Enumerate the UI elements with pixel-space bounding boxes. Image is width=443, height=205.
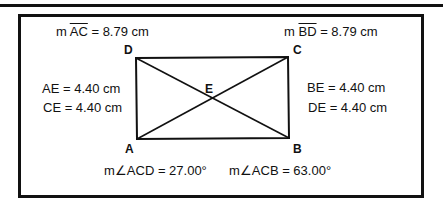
bd-segment: BD <box>298 24 316 39</box>
vertex-e: E <box>205 83 213 96</box>
vertex-a: A <box>125 143 134 156</box>
measure-be: BE = 4.40 cm <box>307 80 385 95</box>
vertex-b: B <box>293 143 302 156</box>
measure-angle-acb: m∠ACB = 63.00° <box>229 163 331 178</box>
measure-ac: m AC = 8.79 cm <box>56 24 149 39</box>
ac-prefix: m <box>56 24 67 39</box>
measure-de: DE = 4.40 cm <box>308 100 387 115</box>
measure-angle-acd: m∠ACD = 27.00° <box>104 163 207 178</box>
ac-segment: AC <box>70 24 88 39</box>
bd-prefix: m <box>284 24 295 39</box>
ac-value: = 8.79 cm <box>91 24 148 39</box>
bd-value: = 8.79 cm <box>320 24 377 39</box>
vertex-c: C <box>293 44 302 57</box>
measure-bd: m BD = 8.79 cm <box>284 24 378 39</box>
diagonal-bd <box>136 58 289 138</box>
measure-ce: CE = 4.40 cm <box>43 100 122 115</box>
measure-ae: AE = 4.40 cm <box>42 81 120 96</box>
vertex-d: D <box>124 44 133 57</box>
